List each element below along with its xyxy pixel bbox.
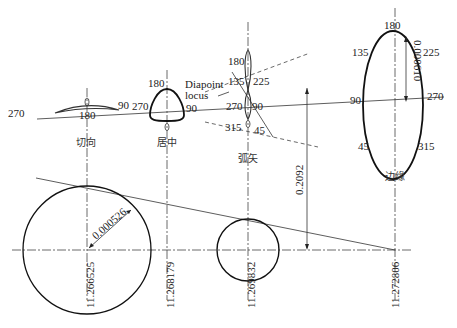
arrow-down-icon — [305, 244, 309, 250]
station-label: 边缘 — [385, 170, 405, 182]
position-label: 11.266525 — [84, 261, 96, 308]
angle-label: 180 — [148, 77, 165, 89]
angle-label: 270 — [132, 100, 149, 112]
angle-label: 90 — [186, 102, 198, 114]
station-label: 居中 — [157, 136, 177, 148]
angle-label: 45 — [358, 140, 370, 152]
diagram-canvas: 270 180 90 切向 180 270 90 居中 180 135 225 … — [0, 0, 457, 328]
diapoint-label: locus — [185, 89, 208, 101]
angle-label: 270 — [8, 107, 25, 119]
radius-dim-label: 0.000526 — [89, 205, 128, 241]
station-label: 弧矢 — [238, 152, 258, 164]
position-label: 11.272806 — [389, 261, 401, 308]
angle-label: 90 — [118, 99, 130, 111]
angle-label: 180 — [79, 109, 96, 121]
angle-label: 90 — [350, 94, 362, 106]
angle-label: 270 — [226, 100, 243, 112]
angle-label: 180 — [228, 55, 245, 67]
arrow-up-icon — [305, 88, 309, 94]
angle-label: 270 — [427, 90, 444, 102]
angle-label: 225 — [253, 75, 270, 87]
angle-label: 135 — [352, 46, 369, 58]
position-label: 11.269832 — [245, 262, 257, 308]
tangent-line — [36, 178, 395, 250]
station-label: 切向 — [76, 136, 96, 148]
angle-label: 45 — [254, 124, 266, 136]
angle-label: 315 — [225, 121, 242, 133]
angle-label: 135 — [228, 75, 245, 87]
angle-label: 315 — [418, 140, 435, 152]
angle-label: 180 — [384, 19, 401, 31]
height-dim-label: 0.2092 — [293, 165, 305, 195]
ellipse-dim-label: 0.000610 — [412, 40, 424, 82]
angle-label: 225 — [423, 46, 440, 58]
diapoint-pointer — [218, 92, 229, 96]
angle-label: 90 — [252, 100, 264, 112]
position-label: 11.268179 — [164, 261, 176, 308]
